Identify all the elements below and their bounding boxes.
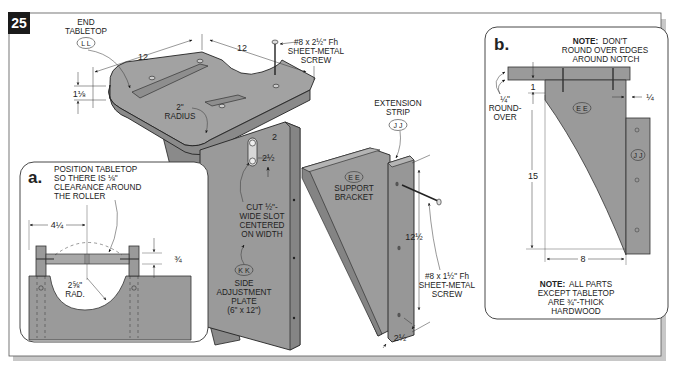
svg-text:OVER: OVER: [493, 113, 516, 122]
svg-text:POSITION TABLETOP: POSITION TABLETOP: [54, 165, 138, 174]
svg-text:12: 12: [237, 43, 247, 53]
svg-text:HARDWOOD: HARDWOOD: [551, 307, 601, 316]
svg-text:PLATE: PLATE: [231, 297, 257, 306]
svg-text:ADJUSTMENT: ADJUSTMENT: [216, 288, 271, 297]
svg-text:SCREW: SCREW: [301, 56, 332, 65]
extension-strip: [388, 156, 414, 342]
svg-text:4¼: 4¼: [51, 220, 64, 230]
svg-text:NOTE: ALL PARTS: NOTE: ALL PARTS: [540, 280, 613, 289]
svg-text:TABLETOP: TABLETOP: [65, 27, 108, 36]
svg-text:1: 1: [530, 82, 535, 92]
svg-text:¼": ¼": [500, 95, 510, 104]
svg-text:#8 x 1½" Fh: #8 x 1½" Fh: [425, 272, 469, 281]
svg-text:ROUND-: ROUND-: [489, 104, 522, 113]
detail-a: a. POSITION TABLETOP SO THERE IS ⅛" CLEA…: [20, 162, 208, 342]
svg-text:2": 2": [176, 103, 184, 112]
svg-text:ON WIDTH: ON WIDTH: [241, 230, 282, 239]
svg-text:END: END: [77, 18, 94, 27]
svg-text:ARE ¾"-THICK: ARE ¾"-THICK: [548, 298, 605, 307]
svg-text:2: 2: [272, 132, 277, 142]
detail-b-letter: b.: [494, 35, 509, 54]
svg-text:E E: E E: [348, 174, 360, 181]
svg-text:THE ROLLER: THE ROLLER: [54, 192, 105, 201]
roller: [46, 254, 129, 264]
svg-text:#8 x 2½" Fh: #8 x 2½" Fh: [294, 38, 338, 47]
figure-number-badge: 25: [8, 12, 30, 34]
tabletop-section: [508, 67, 630, 80]
svg-text:STRIP: STRIP: [386, 108, 411, 117]
svg-text:WIDE SLOT: WIDE SLOT: [239, 212, 284, 221]
svg-text:RAD.: RAD.: [65, 290, 85, 299]
svg-text:RADIUS: RADIUS: [165, 112, 196, 121]
svg-text:12½: 12½: [405, 232, 423, 242]
svg-text:8: 8: [580, 254, 585, 264]
detail-a-letter: a.: [28, 168, 42, 187]
svg-text:EXCEPT TABLETOP: EXCEPT TABLETOP: [538, 289, 615, 298]
svg-text:(6" x 12"): (6" x 12"): [227, 306, 261, 315]
svg-text:2⅝": 2⅝": [68, 281, 82, 290]
svg-text:25: 25: [11, 15, 27, 31]
svg-text:CUT ½"-: CUT ½"-: [246, 203, 278, 212]
svg-text:CENTERED: CENTERED: [239, 221, 284, 230]
svg-text:BRACKET: BRACKET: [335, 193, 374, 202]
svg-text:L L: L L: [81, 40, 91, 47]
svg-text:15: 15: [528, 171, 538, 181]
svg-text:12: 12: [138, 52, 148, 62]
svg-text:¼: ¼: [646, 92, 654, 102]
svg-text:SIDE: SIDE: [234, 279, 254, 288]
svg-text:SHEET-METAL: SHEET-METAL: [288, 47, 345, 56]
svg-text:1⅛: 1⅛: [73, 89, 86, 99]
detail-b: b. NOTE: DON'T ROUND OVER EDGES AROUND N…: [485, 27, 668, 319]
svg-text:K K: K K: [238, 267, 250, 274]
svg-text:SO THERE IS ⅛": SO THERE IS ⅛": [54, 174, 118, 183]
figure-25: 25: [0, 0, 674, 367]
svg-text:SUPPORT: SUPPORT: [334, 184, 373, 193]
svg-text:SHEET-METAL: SHEET-METAL: [419, 281, 476, 290]
svg-text:2½: 2½: [394, 333, 407, 343]
svg-text:CLEARANCE AROUND: CLEARANCE AROUND: [54, 183, 141, 192]
svg-text:ROUND OVER EDGES: ROUND OVER EDGES: [562, 46, 649, 55]
strip-section: [626, 118, 650, 254]
svg-text:J J: J J: [394, 122, 403, 129]
svg-text:NOTE: DON'T: NOTE: DON'T: [573, 37, 628, 46]
svg-text:EXTENSION: EXTENSION: [374, 99, 421, 108]
svg-text:¾: ¾: [174, 254, 182, 264]
svg-text:AROUND NOTCH: AROUND NOTCH: [573, 55, 640, 64]
svg-text:SCREW: SCREW: [432, 290, 463, 299]
svg-text:J J: J J: [634, 152, 643, 159]
svg-text:E E: E E: [576, 105, 588, 112]
